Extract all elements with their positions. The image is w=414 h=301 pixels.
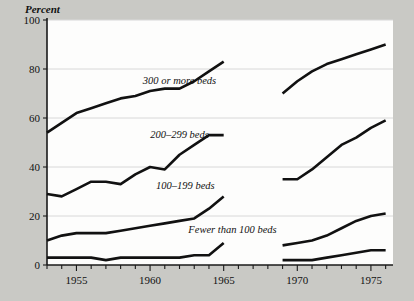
y-tick-label-80: 80	[29, 63, 41, 75]
x-tick-label-1975: 1975	[360, 274, 383, 286]
line-chart: 02040608010019551960196519701975Percent3…	[0, 0, 414, 301]
series-label-2: 100–199 beds	[156, 180, 215, 191]
y-tick-label-100: 100	[24, 14, 41, 26]
y-tick-label-40: 40	[29, 161, 41, 173]
series-label-3: Fewer than 100 beds	[187, 224, 276, 235]
y-tick-label-60: 60	[29, 112, 41, 124]
y-axis-title: Percent	[25, 3, 61, 15]
y-tick-label-0: 0	[35, 259, 41, 271]
series-label-0: 300 or more beds	[142, 75, 216, 86]
x-tick-label-1960: 1960	[139, 274, 162, 286]
x-tick-label-1955: 1955	[65, 274, 88, 286]
y-tick-label-20: 20	[29, 210, 41, 222]
x-tick-label-1965: 1965	[213, 274, 236, 286]
series-label-1: 200–299 beds	[150, 129, 209, 140]
x-tick-label-1970: 1970	[286, 274, 309, 286]
chart-figure: 02040608010019551960196519701975Percent3…	[0, 0, 414, 301]
